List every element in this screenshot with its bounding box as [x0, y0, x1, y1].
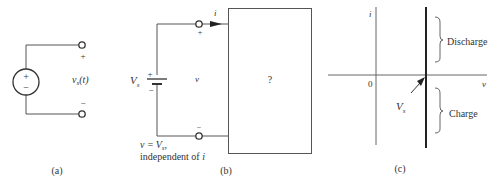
x-axis-label: v: [482, 79, 486, 89]
panel-a: + − + − vs(t) (a): [13, 42, 89, 177]
current-label-b: i: [214, 8, 217, 18]
y-axis-label: i: [369, 9, 372, 19]
discharge-label: Discharge: [447, 36, 488, 47]
source-plus-a: +: [23, 71, 29, 82]
panel-c: i 0 v Discharge Charge Vs (c): [328, 7, 488, 175]
terminal-top-a-icon: [79, 42, 85, 48]
caption-b: (b): [220, 165, 232, 177]
terminal-bottom-a-icon: [79, 111, 85, 117]
wire-bottom-left-b: [157, 84, 196, 136]
charge-label: Charge: [449, 108, 478, 119]
source-minus-a: −: [23, 82, 29, 93]
note-line-2: independent of i: [140, 151, 205, 162]
caption-a: (a): [51, 165, 62, 177]
origin-label: 0: [368, 79, 373, 89]
charge-brace-icon: [435, 88, 443, 133]
vs-label-c: Vs: [396, 100, 406, 115]
wire-top-a: [26, 45, 79, 69]
vs-pointer-line: [411, 83, 420, 93]
terminal-minus-b: −: [197, 123, 202, 132]
current-arrow-icon: [210, 21, 222, 27]
terminal-plus-b: +: [198, 28, 203, 37]
terminal-top-b-icon: [196, 21, 202, 27]
battery-minus-b: −: [148, 85, 153, 95]
panel-b: + − Vs i + − v ? v =Vs, independent of i…: [130, 8, 312, 177]
circuit-diagram: + − + − vs(t) (a) + − Vs i + − v ? v =Vs…: [0, 0, 501, 187]
wire-top-left-b: [157, 24, 196, 75]
terminal-plus-a: +: [80, 51, 85, 61]
wire-bottom-a: [26, 95, 79, 114]
voltage-label-a: vs(t): [72, 74, 89, 87]
terminal-minus-a: −: [80, 98, 85, 108]
voltage-label-b: v: [195, 74, 199, 84]
source-label-b: Vs: [130, 74, 140, 89]
unknown-load-label: ?: [268, 74, 273, 85]
caption-c: (c): [394, 163, 405, 175]
discharge-brace-icon: [435, 17, 443, 62]
terminal-bottom-b-icon: [196, 133, 202, 139]
battery-plus-b: +: [147, 69, 152, 79]
